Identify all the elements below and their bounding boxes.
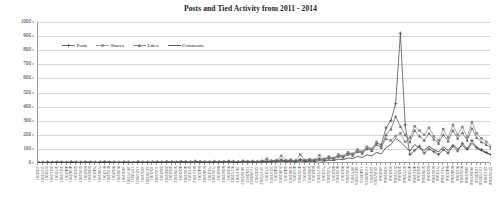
legend-label: Posts xyxy=(77,43,88,48)
x-tick-label: 3/21/2011 xyxy=(59,166,63,182)
x-tick-mark xyxy=(252,163,253,165)
x-tick-mark xyxy=(452,163,453,165)
x-tick-mark xyxy=(247,163,248,165)
x-tick-mark xyxy=(66,163,67,165)
square-marker xyxy=(390,139,393,142)
square-marker xyxy=(452,124,455,127)
x-tick-label: 1/2/2012 xyxy=(149,166,153,181)
x-tick-label: 11/7/2011 xyxy=(130,166,134,182)
square-marker xyxy=(413,125,416,128)
y-tick-mark xyxy=(32,50,34,51)
x-tick-mark xyxy=(213,163,214,165)
x-tick-label: 6/4/2012 xyxy=(197,166,201,181)
square-marker xyxy=(299,153,302,156)
x-tick-mark xyxy=(285,163,286,165)
triangle-marker xyxy=(394,115,397,118)
x-tick-mark xyxy=(385,163,386,165)
x-tick-mark xyxy=(275,163,276,165)
x-tick-label: 10/15/2012 xyxy=(240,166,244,185)
x-tick-label: 7/16/2012 xyxy=(211,166,215,183)
x-tick-mark xyxy=(476,163,477,165)
x-tick-label: 8/19/2013 xyxy=(335,166,339,183)
x-tick-mark xyxy=(109,163,110,165)
x-tick-label: 8/5/2013 xyxy=(330,166,334,181)
series-shares xyxy=(38,121,491,163)
x-tick-label: 1/6/2014 xyxy=(378,166,382,181)
square-marker xyxy=(456,134,459,137)
cross-marker xyxy=(399,32,402,35)
x-tick-mark xyxy=(137,163,138,165)
x-tick-label: 11/21/2011 xyxy=(135,166,139,184)
x-tick-label: 3/3/2014 xyxy=(397,166,401,181)
x-tick-label: 9/16/2013 xyxy=(345,166,349,183)
series-posts xyxy=(38,32,491,163)
x-tick-mark xyxy=(280,163,281,165)
cross-marker xyxy=(62,42,75,49)
triangle-marker xyxy=(475,136,478,139)
y-tick-mark xyxy=(32,120,34,121)
square-marker xyxy=(432,135,435,138)
x-tick-mark xyxy=(233,163,234,165)
x-tick-label: 7/7/2014 xyxy=(435,166,439,181)
square-marker xyxy=(485,141,488,144)
y-tick-label: 500 xyxy=(23,90,31,95)
x-tick-label: 2/3/2014 xyxy=(388,166,392,181)
legend-item-comments[interactable]: Comments xyxy=(168,42,204,49)
x-tick-label: 7/4/2011 xyxy=(92,166,96,180)
x-tick-mark xyxy=(428,163,429,165)
page-title: Posts and Tied Activity from 2011 - 2014 xyxy=(0,4,501,13)
x-tick-label: 12/3/2012 xyxy=(254,166,258,183)
legend-item-posts[interactable]: Posts xyxy=(62,42,87,49)
x-tick-mark xyxy=(51,163,52,165)
x-tick-mark xyxy=(457,163,458,165)
legend-item-likes[interactable]: Likes xyxy=(133,42,159,49)
x-tick-mark xyxy=(261,163,262,165)
x-tick-label: 1/20/2014 xyxy=(383,166,387,183)
square-marker xyxy=(409,136,412,139)
x-tick-mark xyxy=(461,163,462,165)
series-line xyxy=(38,116,491,162)
x-tick-mark xyxy=(118,163,119,165)
x-tick-mark xyxy=(185,163,186,165)
x-tick-label: 2/7/2011 xyxy=(44,166,48,180)
x-tick-mark xyxy=(75,163,76,165)
x-tick-mark xyxy=(409,163,410,165)
x-tick-label: 3/4/2013 xyxy=(283,166,287,181)
x-tick-label: 4/18/2011 xyxy=(68,166,72,182)
x-tick-mark xyxy=(414,163,415,165)
chart-legend: PostsSharesLikesComments xyxy=(62,40,204,50)
square-marker xyxy=(375,141,378,144)
x-tick-mark xyxy=(80,163,81,165)
x-tick-mark xyxy=(433,163,434,165)
x-tick-label: 9/2/2013 xyxy=(340,166,344,181)
square-marker xyxy=(428,126,431,129)
x-tick-mark xyxy=(399,163,400,165)
x-tick-label: 2/6/2012 xyxy=(159,166,163,181)
x-tick-mark xyxy=(42,163,43,165)
square-marker xyxy=(404,141,407,144)
x-tick-label: 12/17/2012 xyxy=(259,166,263,185)
y-tick-label: 400 xyxy=(23,104,31,109)
x-tick-label: 6/18/2012 xyxy=(202,166,206,183)
x-tick-mark xyxy=(290,163,291,165)
triangle-marker xyxy=(470,127,473,130)
x-tick-mark xyxy=(99,163,100,165)
legend-item-shares[interactable]: Shares xyxy=(96,42,124,49)
x-tick-mark xyxy=(318,163,319,165)
y-axis: 01002003004005006007008009001000 xyxy=(0,22,34,163)
x-tick-label: 2/17/2014 xyxy=(392,166,396,183)
y-tick-label: 100 xyxy=(23,146,31,151)
x-tick-mark xyxy=(471,163,472,165)
x-tick-label: 4/1/2013 xyxy=(292,166,296,181)
triangle-marker xyxy=(451,129,454,132)
x-tick-label: 5/7/2012 xyxy=(187,166,191,181)
x-tick-mark xyxy=(337,163,338,165)
x-tick-label: 10/1/2012 xyxy=(235,166,239,183)
x-tick-label: 5/21/2012 xyxy=(192,166,196,183)
x-tick-mark xyxy=(323,163,324,165)
x-tick-mark xyxy=(56,163,57,165)
x-tick-mark xyxy=(466,163,467,165)
series-comments xyxy=(38,138,491,162)
x-tick-label: 8/6/2012 xyxy=(216,166,220,181)
x-tick-mark xyxy=(166,163,167,165)
